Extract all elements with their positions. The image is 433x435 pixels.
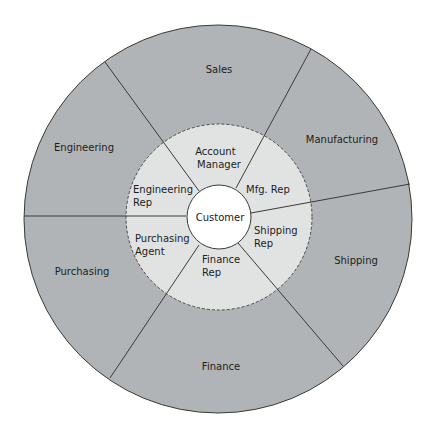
inner-label-line: Rep [202, 267, 221, 278]
inner-label-line: Shipping [254, 225, 298, 236]
outer-label-engineering: Engineering [54, 142, 114, 153]
inner-label-line: Finance [202, 254, 240, 265]
inner-label-line: Manager [197, 159, 242, 170]
inner-label-line: Rep [133, 197, 152, 208]
inner-label-line: Account [195, 146, 235, 157]
outer-label-purchasing: Purchasing [55, 266, 110, 277]
inner-label-line: Rep [254, 238, 273, 249]
inner-label-line: Purchasing [135, 233, 190, 244]
inner-label-mfg-rep: Mfg. Rep [246, 184, 290, 195]
outer-label-shipping: Shipping [334, 255, 378, 266]
inner-label-line: Agent [135, 246, 165, 257]
outer-label-sales: Sales [206, 64, 233, 75]
customer-relationship-diagram: Customer Sales Manufacturing Shipping Fi… [0, 0, 433, 435]
outer-label-manufacturing: Manufacturing [306, 134, 378, 145]
inner-label-line: Engineering [133, 184, 193, 195]
customer-label: Customer [196, 212, 245, 223]
outer-label-finance: Finance [202, 361, 240, 372]
